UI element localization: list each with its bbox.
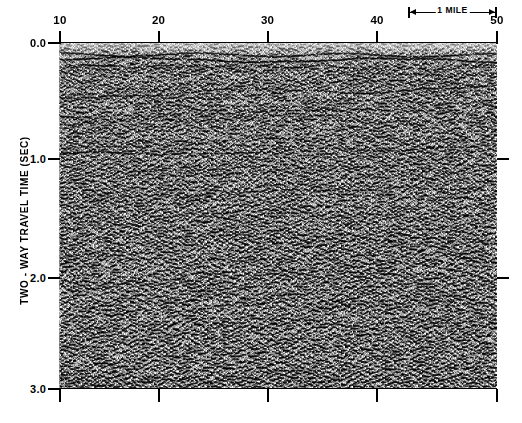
y-tick-0: [48, 42, 60, 44]
x-tick-bottom-20: [158, 389, 160, 402]
y-tick-right-2: [497, 277, 509, 279]
scale-bar-right-cap: [495, 7, 497, 18]
x-tick-bottom-30: [267, 389, 269, 402]
seismic-wiggle-canvas: [59, 43, 497, 388]
y-tick-right-1: [497, 158, 509, 160]
scale-bar-left-arrow-icon: [410, 9, 416, 15]
corner-tick-bottom-left: [59, 389, 61, 402]
seismic-section-figure: 10 20 30 40 50 0.0 1.0 2.0 3.0 TWO - WAY…: [0, 0, 522, 423]
y-tick-3: [48, 388, 60, 390]
corner-tick-bottom-right: [496, 389, 498, 402]
y-tick-1: [48, 158, 60, 160]
y-axis-label-3: 3.0: [18, 383, 46, 395]
x-tick-bottom-40: [376, 389, 378, 402]
axis-bottom-rule: [59, 388, 497, 389]
x-axis-label-30: 30: [261, 14, 274, 26]
x-tick-30: [267, 31, 269, 42]
y-axis-title: TWO - WAY TRAVEL TIME (SEC): [19, 131, 30, 311]
corner-tick-top-right: [496, 31, 498, 44]
scale-bar-right-arrow-icon: [489, 9, 495, 15]
x-tick-20: [158, 31, 160, 42]
x-tick-40: [376, 31, 378, 42]
scale-bar-label: 1 MILE: [435, 5, 469, 15]
y-tick-2: [48, 277, 60, 279]
scale-bar: 1 MILE: [408, 6, 497, 20]
x-axis-label-20: 20: [152, 14, 165, 26]
axis-top-rule: [59, 42, 497, 43]
x-axis-label-40: 40: [370, 14, 383, 26]
seismic-data-panel: [59, 43, 497, 388]
x-axis-label-10: 10: [53, 14, 66, 26]
y-axis-label-0: 0.0: [18, 37, 46, 49]
